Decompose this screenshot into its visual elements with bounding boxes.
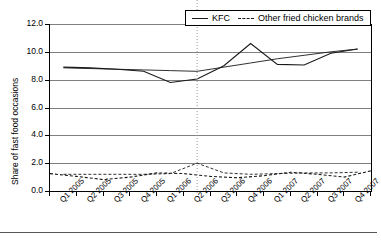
y-tick-label: 10.0	[10, 46, 43, 56]
series-layer	[50, 24, 371, 191]
y-tick-mark	[45, 108, 49, 109]
series-line-1	[63, 49, 357, 71]
legend-key-solid-icon	[192, 18, 208, 19]
y-tick-label: 2.0	[10, 157, 43, 167]
y-tick-label: 8.0	[10, 74, 43, 84]
chart-legend: KFC Other fried chicken brands	[185, 10, 371, 26]
y-tick-label: 6.0	[10, 102, 43, 112]
y-tick-mark	[45, 80, 49, 81]
y-tick-label: 0.0	[10, 185, 43, 195]
y-tick-label: 4.0	[10, 129, 43, 139]
x-tick-mark	[49, 192, 50, 196]
y-tick-mark	[45, 24, 49, 25]
series-line-0	[63, 43, 357, 82]
legend-label-other-brands: Other fried chicken brands	[258, 13, 364, 23]
legend-key-dashed-icon	[238, 18, 254, 19]
y-tick-label: 12.0	[10, 18, 43, 28]
plot-area	[49, 24, 372, 192]
legend-item-kfc: KFC	[192, 13, 230, 23]
y-tick-mark	[45, 52, 49, 53]
footer-rule	[0, 232, 377, 233]
y-tick-mark	[45, 135, 49, 136]
legend-item-other-brands: Other fried chicken brands	[238, 13, 364, 23]
y-tick-mark	[45, 163, 49, 164]
series-line-3	[63, 163, 357, 174]
legend-label-kfc: KFC	[212, 13, 230, 23]
